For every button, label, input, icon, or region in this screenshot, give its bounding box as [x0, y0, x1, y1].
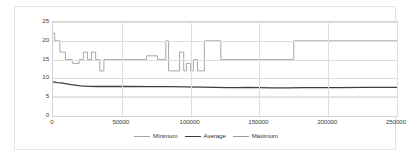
x-axis-tick-label: 100000 [180, 119, 200, 125]
series-line-maximum [53, 33, 397, 71]
chart-container: 0510152025 05000010000015000020000025000… [14, 6, 396, 150]
gridline-vertical [397, 22, 398, 116]
gridline-vertical [122, 22, 123, 116]
legend-swatch-minimum [134, 136, 150, 137]
x-axis: 050000100000150000200000250000 [52, 119, 398, 131]
y-axis-tick-label: 0 [19, 112, 49, 118]
x-axis-tick-label: 200000 [317, 119, 337, 125]
chart-legend: MinimumAverageMaximum [15, 133, 397, 139]
series-line-average [53, 82, 397, 88]
gridline-horizontal [53, 78, 397, 79]
legend-swatch-average [185, 136, 201, 137]
legend-item-maximum[interactable]: Maximum [233, 133, 278, 139]
gridline-horizontal [53, 41, 397, 42]
legend-item-minimum[interactable]: Minimum [134, 133, 177, 139]
gridline-horizontal [53, 60, 397, 61]
legend-label: Average [204, 133, 226, 139]
gridline-vertical [191, 22, 192, 116]
y-axis: 0510152025 [15, 21, 49, 117]
y-axis-tick-label: 25 [19, 18, 49, 24]
gridline-horizontal [53, 22, 397, 23]
x-axis-tick-label: 250000 [386, 119, 406, 125]
plot-area [52, 21, 398, 117]
gridline-vertical [259, 22, 260, 116]
y-axis-tick-label: 15 [19, 56, 49, 62]
y-axis-tick-label: 5 [19, 93, 49, 99]
gridline-vertical [328, 22, 329, 116]
legend-swatch-maximum [233, 136, 249, 137]
y-axis-tick-label: 20 [19, 37, 49, 43]
gridline-horizontal [53, 97, 397, 98]
chart-plot-lines [53, 22, 397, 116]
legend-label: Minimum [153, 133, 177, 139]
y-axis-tick-label: 10 [19, 74, 49, 80]
legend-label: Maximum [252, 133, 278, 139]
legend-item-average[interactable]: Average [185, 133, 226, 139]
x-axis-tick-label: 0 [50, 119, 53, 125]
x-axis-tick-label: 50000 [112, 119, 129, 125]
x-axis-tick-label: 150000 [248, 119, 268, 125]
